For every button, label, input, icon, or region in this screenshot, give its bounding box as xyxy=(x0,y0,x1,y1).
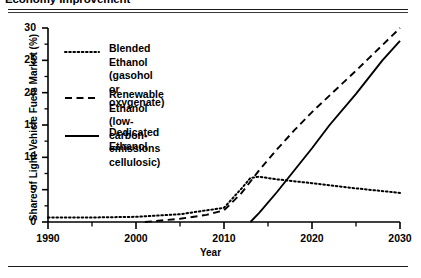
series-line xyxy=(48,177,400,218)
y-tick-label: 10 xyxy=(10,150,36,162)
x-tick-label: 1990 xyxy=(26,232,70,244)
figure-container: Economy Improvement Share of Light-Vehic… xyxy=(0,0,421,278)
y-tick-label: 20 xyxy=(10,86,36,98)
y-axis-ticks xyxy=(42,28,48,222)
y-tick-label: 25 xyxy=(10,53,36,65)
chart-series-group xyxy=(48,28,400,222)
series-line xyxy=(145,28,400,222)
x-tick-label: 2000 xyxy=(114,232,158,244)
x-axis-ticks xyxy=(48,222,400,229)
series-line xyxy=(250,41,400,222)
y-tick-label: 30 xyxy=(10,21,36,33)
y-tick-label: 5 xyxy=(10,183,36,195)
legend-line-sample-dotted xyxy=(64,46,100,58)
legend-label: Dedicated Ethanol xyxy=(109,126,159,153)
legend-line-sample-dashed xyxy=(64,92,100,104)
y-tick-label: 15 xyxy=(10,118,36,130)
x-tick-label: 2020 xyxy=(290,232,334,244)
legend-line-sample-solid xyxy=(64,130,100,142)
x-axis-title: Year xyxy=(0,247,421,258)
x-tick-label: 2030 xyxy=(378,232,421,244)
x-tick-label: 2010 xyxy=(202,232,246,244)
footer-rule xyxy=(8,266,408,267)
y-tick-label: 0 xyxy=(10,215,36,227)
